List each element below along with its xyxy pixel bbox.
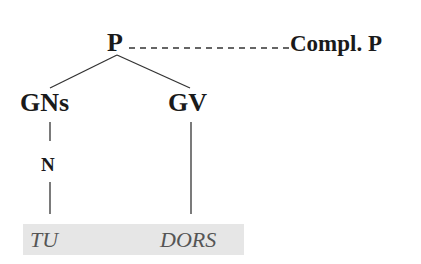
node-n: N [41,155,55,174]
node-compl-p: Compl. P [290,32,382,55]
node-gv: GV [168,90,207,116]
word-dors: DORS [160,229,216,251]
node-gns: GNs [20,90,69,116]
branch-p-to-gv [117,55,190,88]
word-tu: TU [30,229,58,251]
node-p: P [107,30,123,56]
branch-p-to-gns [50,55,117,88]
